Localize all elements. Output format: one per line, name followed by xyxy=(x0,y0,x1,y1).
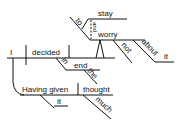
subject-word: I xyxy=(10,48,12,57)
worry-word: worry xyxy=(97,30,118,39)
pedestal-right xyxy=(100,40,104,58)
much-word: much xyxy=(94,95,115,115)
pedestal-left xyxy=(96,40,100,58)
verb-word: decided xyxy=(32,48,60,57)
stay-word: stay xyxy=(98,9,113,18)
not-word: not xyxy=(119,41,134,56)
participle-object-word: thought xyxy=(83,85,110,94)
about-word: about xyxy=(140,37,161,58)
sentence-diagram: I decided to stay and worry not about it… xyxy=(0,0,181,129)
end-word: end xyxy=(74,61,87,70)
participle-word: Having given xyxy=(22,85,68,94)
indirect-object-word: it xyxy=(57,97,62,106)
about-object-word: it xyxy=(164,52,169,61)
indirect-object-slant xyxy=(40,95,54,108)
the-word: the xyxy=(85,67,99,82)
